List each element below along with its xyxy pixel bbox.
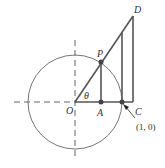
diagram-canvas: D P θ O A C (1, 0) [0, 0, 165, 168]
unit-circle-diagram: D P θ O A C (1, 0) [0, 0, 165, 168]
label-d: D [133, 4, 142, 15]
point-p [99, 60, 104, 65]
point-a [99, 100, 104, 105]
label-c: C [135, 106, 142, 117]
label-unit-point: (1, 0) [136, 122, 156, 132]
label-o: O [66, 105, 73, 116]
label-a: A [96, 107, 104, 118]
label-theta: θ [84, 90, 89, 101]
label-p: P [96, 48, 103, 59]
point-unit [120, 100, 125, 105]
